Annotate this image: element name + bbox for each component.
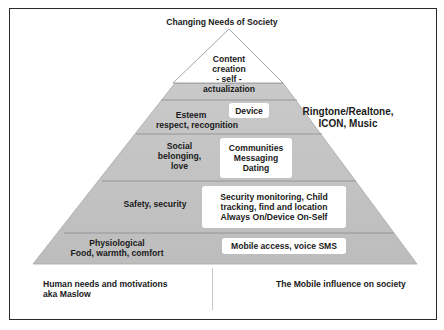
tier-social-maslow: Social belonging, love [152,141,207,171]
diagram-title: Changing Needs of Society [0,17,444,27]
footer-right-caption: The Mobile influence on society [276,279,406,289]
side-note: Ringtone/Realtone, ICON, Music [292,106,404,130]
tier-safety-maslow: Safety, security [110,199,200,209]
apex-label: Content creation - self - actualization [179,54,279,94]
footer-left-caption: Human needs and motivations aka Maslow [43,279,168,299]
footer-divider [212,268,213,310]
tier-safety-mobile-box: Security monitoring, Child tracking, fin… [202,186,346,228]
tier-social-mobile-box: Communities Messaging Dating [220,138,292,178]
tier-physiological-maslow: Physiological Food, warmth, comfort [62,238,172,258]
tier-physiological-mobile-box: Mobile access, voice SMS [222,238,346,254]
tier-esteem-mobile-box: Device [229,103,269,118]
